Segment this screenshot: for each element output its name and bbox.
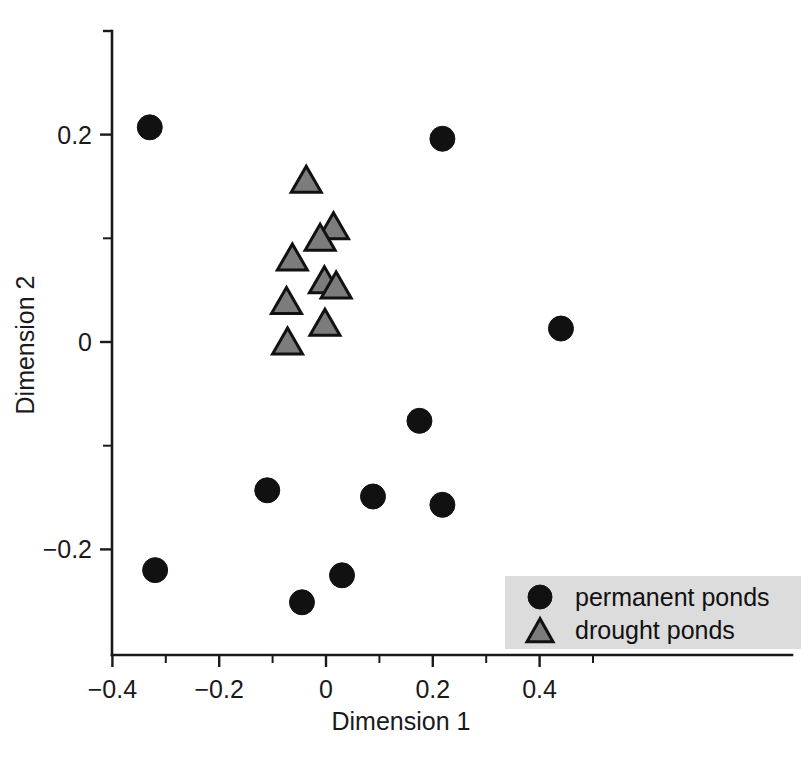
x-axis-title: Dimension 1 — [332, 707, 471, 735]
x-tick-label: 0.2 — [415, 675, 450, 703]
x-tick-labels: −0.4−0.200.20.4 — [88, 675, 557, 703]
x-tick-label: −0.4 — [88, 675, 137, 703]
series-permanent-ponds — [137, 115, 573, 615]
data-point — [407, 408, 432, 433]
data-point — [255, 478, 280, 503]
data-point — [277, 244, 307, 270]
y-tick-label: 0 — [78, 328, 92, 356]
x-tick-label: 0.4 — [522, 675, 557, 703]
data-point — [291, 166, 321, 192]
data-point — [330, 563, 355, 588]
data-point — [548, 316, 573, 341]
data-point — [137, 115, 162, 140]
chart-legend: permanent pondsdrought ponds — [505, 576, 801, 649]
x-tick-label: −0.2 — [195, 675, 244, 703]
data-point — [289, 590, 314, 615]
data-point — [430, 126, 455, 151]
legend-label: drought ponds — [575, 616, 735, 644]
y-tick-label: 0.2 — [57, 121, 92, 149]
data-series-layer — [137, 115, 573, 615]
series-drought-ponds — [271, 166, 351, 354]
y-tick-label: −0.2 — [43, 535, 92, 563]
data-point — [273, 328, 303, 354]
data-point — [271, 288, 301, 314]
data-point — [430, 492, 455, 517]
chart-canvas: −0.4−0.200.20.4 0.20−0.2 permanent ponds… — [0, 0, 802, 775]
y-axis-title: Dimension 2 — [11, 276, 39, 415]
data-point — [310, 309, 340, 335]
x-tick-label: 0 — [319, 675, 333, 703]
data-point — [360, 484, 385, 509]
data-point — [143, 558, 168, 583]
y-tick-labels: 0.20−0.2 — [43, 121, 92, 564]
scatter-plot-figure: −0.4−0.200.20.4 0.20−0.2 permanent ponds… — [0, 0, 802, 775]
legend-label: permanent ponds — [575, 583, 770, 611]
legend-marker-circle — [528, 585, 552, 609]
